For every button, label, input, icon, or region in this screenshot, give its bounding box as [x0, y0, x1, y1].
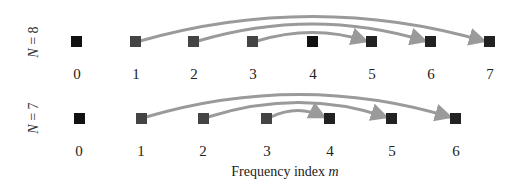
index-label: 7	[486, 66, 494, 82]
square-m1	[136, 113, 147, 124]
index-label: 3	[263, 143, 271, 159]
indices-n8: 0 1 2 3 4 5 6 7	[73, 66, 494, 82]
index-label: 1	[137, 143, 145, 159]
row-label-n8: N = 8	[26, 26, 41, 58]
row-label-var: N	[26, 48, 41, 59]
square-m6	[425, 36, 436, 47]
square-m3	[247, 36, 258, 47]
index-label: 0	[73, 66, 81, 82]
squares-n7	[74, 113, 461, 124]
frequency-mirror-diagram: N = 8 N = 7 0 1 2 3 4 5 6 7	[0, 0, 518, 189]
index-label: 2	[199, 143, 207, 159]
arrow-3-to-4	[271, 111, 324, 118]
square-m3	[261, 113, 272, 124]
square-m6	[450, 113, 461, 124]
index-label: 6	[427, 66, 435, 82]
index-label: 5	[388, 143, 396, 159]
square-m7	[484, 36, 495, 47]
square-m1	[130, 36, 141, 47]
square-m2	[198, 113, 209, 124]
index-label: 3	[249, 66, 257, 82]
squares-n8	[71, 36, 495, 47]
row-label-var: N	[26, 124, 41, 135]
arrows-n7	[146, 95, 450, 118]
arrow-1-to-6	[146, 95, 450, 118]
square-m5	[366, 36, 377, 47]
indices-n7: 0 1 2 3 4 5 6	[75, 143, 460, 159]
square-m4	[307, 36, 318, 47]
svg-text:N = 7: N = 7	[26, 102, 41, 134]
index-label: 5	[368, 66, 376, 82]
square-m0	[74, 113, 85, 124]
square-m5	[386, 113, 397, 124]
svg-text:N = 8: N = 8	[26, 26, 41, 58]
square-m4	[324, 113, 335, 124]
index-label: 0	[75, 143, 83, 159]
index-label: 1	[132, 66, 140, 82]
index-label: 6	[452, 143, 460, 159]
row-label-n7: N = 7	[26, 102, 41, 134]
index-label: 2	[190, 66, 198, 82]
index-label: 4	[309, 66, 317, 82]
square-m0	[71, 36, 82, 47]
index-label: 4	[326, 143, 334, 159]
square-m2	[188, 36, 199, 47]
x-axis-label: Frequency index m	[231, 164, 338, 179]
